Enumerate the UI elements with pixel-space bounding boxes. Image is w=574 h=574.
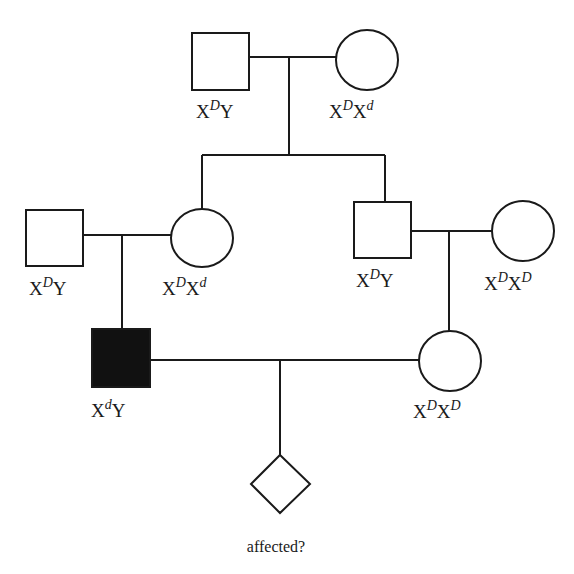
gen4-child-diamond (251, 455, 310, 513)
gen2-left-husband-genotype: XDY (29, 275, 67, 299)
gen3-affected-male-filled-square (92, 329, 150, 387)
gen1-mother-genotype: XDXd (329, 98, 375, 122)
gen1-father-genotype: XDY (196, 98, 234, 122)
gen2-daughter-female-circle (171, 209, 233, 267)
gen3-female-genotype: XDXD (413, 398, 461, 422)
gen2-daughter-genotype: XDXd (162, 275, 208, 299)
gen2-son-male-square (354, 202, 411, 258)
gen2-right-wife-female-circle (492, 201, 554, 261)
gen4-child-caption: affected? (247, 538, 305, 555)
gen1-father-male-square (192, 33, 249, 90)
pedigree-chart: XDY XDXd XDY XDXd XDY XDXD XdY XDXD affe… (0, 0, 574, 574)
gen3-affected-male-genotype: XdY (91, 397, 126, 421)
gen2-left-husband-male-square (26, 210, 83, 266)
gen2-son-genotype: XDY (356, 267, 394, 291)
gen1-mother-female-circle (336, 30, 398, 90)
gen3-female-circle (419, 331, 481, 391)
gen2-right-wife-genotype: XDXD (484, 270, 532, 294)
